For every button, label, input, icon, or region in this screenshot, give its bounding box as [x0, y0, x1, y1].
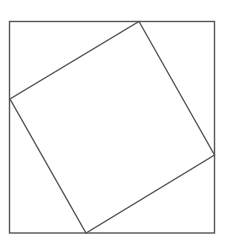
- outer-square: [10, 22, 215, 234]
- inner-tilted-square: [10, 22, 215, 234]
- diagram-canvas: [0, 0, 227, 241]
